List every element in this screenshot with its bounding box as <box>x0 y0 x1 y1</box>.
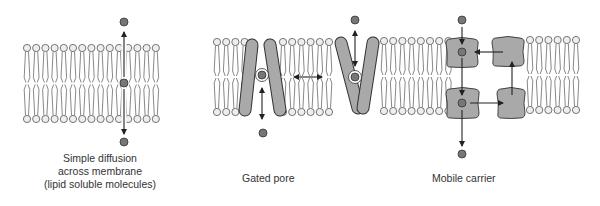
label-line: Simple diffusion <box>44 152 156 165</box>
lipid-head-icon <box>279 38 286 45</box>
lipid-tails <box>24 52 30 116</box>
lipid-head-icon <box>51 44 58 51</box>
mobile-carrier-panel <box>446 16 525 158</box>
lipid-tails <box>546 44 552 107</box>
lipid-head-icon <box>60 115 67 122</box>
lipid-tails <box>536 44 542 107</box>
label-line: Gated pore <box>242 172 295 185</box>
lipid-head-icon <box>563 36 570 43</box>
lipid-tails <box>33 52 39 116</box>
lipid-tails <box>214 46 220 109</box>
lipid-head-icon <box>143 115 150 122</box>
lipid-head-icon <box>554 36 561 43</box>
lipid-head-icon <box>426 37 433 44</box>
lipid-head-icon <box>307 38 314 45</box>
pore-protein-left-fill <box>245 45 252 110</box>
pore-protein-right-fill <box>363 43 373 108</box>
lipid-head-icon <box>152 115 159 122</box>
lipid-tails <box>153 52 159 116</box>
molecule-icon <box>351 73 359 81</box>
lipid-head-icon <box>572 106 579 113</box>
label-line: Mobile carrier <box>432 172 496 185</box>
lipid-head-icon <box>390 107 397 114</box>
lipid-tails <box>233 46 239 109</box>
label-gated-pore: Gated pore <box>242 172 295 185</box>
lipid-head-icon <box>289 38 296 45</box>
lipid-head-icon <box>390 37 397 44</box>
label-line: across membrane <box>44 165 156 178</box>
lipid-tails <box>555 44 561 107</box>
lipid-head-icon <box>325 38 332 45</box>
pore-protein-right-fill <box>270 45 280 110</box>
lipid-tails <box>79 52 85 116</box>
lipid-head-icon <box>213 108 220 115</box>
molecule-icon <box>120 138 128 146</box>
lipid-head-icon <box>289 108 296 115</box>
lipid-tails <box>107 52 113 116</box>
lipid-head-icon <box>33 44 40 51</box>
molecule-icon <box>458 48 466 56</box>
lipid-head-icon <box>106 44 113 51</box>
lipid-head-icon <box>60 44 67 51</box>
lipid-tails <box>400 45 406 108</box>
lipid-head-icon <box>152 44 159 51</box>
membrane-mobile-carrier-right <box>526 36 579 113</box>
molecule-icon <box>259 129 267 137</box>
simple-diffusion-panel <box>120 18 128 146</box>
lipid-tails <box>436 45 442 108</box>
lipid-head-icon <box>23 44 30 51</box>
lipid-head-icon <box>143 44 150 51</box>
lipid-head-icon <box>399 107 406 114</box>
gated-pore-panel <box>245 16 373 137</box>
lipid-head-icon <box>88 44 95 51</box>
lipid-head-icon <box>69 115 76 122</box>
lipid-head-icon <box>526 106 533 113</box>
molecule-icon <box>351 16 359 24</box>
lipid-head-icon <box>232 38 239 45</box>
lipid-head-icon <box>417 107 424 114</box>
lipid-head-icon <box>213 38 220 45</box>
label-line: (lipid soluble molecules) <box>44 178 156 191</box>
lipid-head-icon <box>316 108 323 115</box>
lipid-tails <box>223 46 229 109</box>
lipid-head-icon <box>23 115 30 122</box>
molecule-icon <box>458 99 466 107</box>
lipid-head-icon <box>526 36 533 43</box>
lipid-tails <box>527 44 533 107</box>
lipid-tails <box>390 45 396 108</box>
lipid-head-icon <box>298 38 305 45</box>
lipid-head-icon <box>325 108 332 115</box>
lipid-head-icon <box>380 107 387 114</box>
lipid-head-icon <box>51 115 58 122</box>
label-mobile-carrier: Mobile carrier <box>432 172 496 185</box>
lipid-head-icon <box>232 108 239 115</box>
lipid-head-icon <box>79 44 86 51</box>
lipid-head-icon <box>316 38 323 45</box>
lipid-head-icon <box>563 106 570 113</box>
molecule-icon <box>120 79 128 87</box>
lipid-head-icon <box>79 115 86 122</box>
lipid-tails <box>61 52 67 116</box>
lipid-tails <box>573 44 579 107</box>
molecule-icon <box>458 150 466 158</box>
lipid-tails <box>70 52 76 116</box>
lipid-tails <box>43 52 49 116</box>
lipid-head-icon <box>545 106 552 113</box>
lipid-tails <box>409 45 415 108</box>
lipid-head-icon <box>298 108 305 115</box>
membrane-transport-diagram: Simple diffusion across membrane (lipid … <box>0 0 600 206</box>
label-simple-diffusion: Simple diffusion across membrane (lipid … <box>44 152 156 191</box>
lipid-head-icon <box>69 44 76 51</box>
lipid-head-icon <box>33 115 40 122</box>
lipid-tails <box>52 52 58 116</box>
lipid-head-icon <box>380 37 387 44</box>
lipid-head-icon <box>554 106 561 113</box>
lipid-head-icon <box>536 36 543 43</box>
membrane-gated-pore-right <box>380 37 452 114</box>
lipid-head-icon <box>42 115 49 122</box>
lipid-tails <box>98 52 104 116</box>
lipid-tails <box>326 46 332 109</box>
molecule-icon <box>258 71 266 79</box>
lipid-head-icon <box>223 108 230 115</box>
lipid-head-icon <box>436 37 443 44</box>
